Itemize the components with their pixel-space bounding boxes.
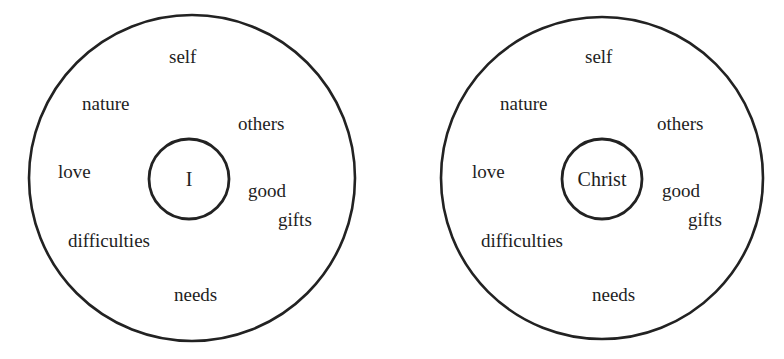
diagram-canvas: I self nature others love good gifts dif… — [0, 0, 784, 359]
label-others: others — [238, 113, 284, 134]
label-others: others — [657, 113, 703, 134]
label-good: good — [248, 180, 287, 201]
label-needs: needs — [174, 284, 217, 305]
label-gifts: gifts — [278, 209, 312, 230]
label-self: self — [169, 46, 197, 67]
label-love: love — [472, 161, 505, 182]
label-self: self — [585, 46, 613, 67]
center-label-right: Christ — [578, 168, 627, 190]
label-good: good — [662, 180, 701, 201]
label-nature: nature — [500, 93, 547, 114]
label-needs: needs — [592, 284, 635, 305]
label-nature: nature — [82, 93, 129, 114]
label-difficulties: difficulties — [481, 230, 563, 251]
label-love: love — [58, 161, 91, 182]
diagram-christ-centered: Christ self nature others love good gift… — [441, 17, 763, 339]
center-label-left: I — [186, 168, 193, 190]
label-difficulties: difficulties — [68, 230, 150, 251]
diagram-self-centered: I self nature others love good gifts dif… — [29, 15, 355, 341]
label-gifts: gifts — [688, 209, 722, 230]
